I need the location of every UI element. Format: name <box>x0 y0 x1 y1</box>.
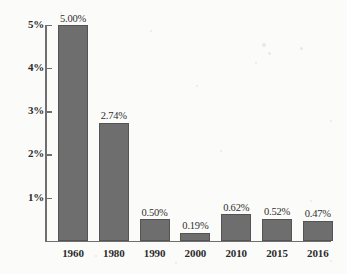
plot-area: 5.00%2.74%0.50%0.19%0.62%0.52%0.47% <box>45 25 331 241</box>
bar[interactable] <box>262 219 292 241</box>
bar-value-label: 5.00% <box>60 13 86 24</box>
x-tick-label: 2015 <box>257 247 297 259</box>
bar[interactable] <box>303 221 333 241</box>
bar-value-label: 0.62% <box>223 202 249 213</box>
x-tick-label: 1980 <box>94 247 134 259</box>
bar-value-label: 0.47% <box>305 208 331 219</box>
x-tick-label: 2000 <box>175 247 215 259</box>
x-tick-label: 1990 <box>135 247 175 259</box>
x-tick-label: 2016 <box>298 247 338 259</box>
bar-value-label: 0.19% <box>182 220 208 231</box>
bar[interactable] <box>140 219 170 241</box>
bar-group[interactable]: 2.74% <box>99 105 129 241</box>
y-tick-label: 3% <box>14 104 44 116</box>
bar-chart: 1%2%3%4%5% 5.00%2.74%0.50%0.19%0.62%0.52… <box>0 0 347 274</box>
bar-value-label: 2.74% <box>101 110 127 121</box>
bar[interactable] <box>221 214 251 241</box>
bar-group[interactable]: 0.50% <box>140 201 170 241</box>
x-tick-label: 1960 <box>53 247 93 259</box>
bar[interactable] <box>180 233 210 241</box>
x-tick-label: 2010 <box>216 247 256 259</box>
bar-group[interactable]: 0.52% <box>262 201 292 241</box>
bar[interactable] <box>58 25 88 241</box>
bar-value-label: 0.52% <box>264 206 290 217</box>
bar-value-label: 0.50% <box>142 207 168 218</box>
y-tick-label: 1% <box>14 191 44 203</box>
y-tick-label: 4% <box>14 61 44 73</box>
bar-group[interactable]: 0.47% <box>303 203 333 241</box>
bar-group[interactable]: 0.62% <box>221 196 251 241</box>
bar[interactable] <box>99 123 129 241</box>
bar-group[interactable]: 5.00% <box>58 7 88 241</box>
y-tick-label: 2% <box>14 147 44 159</box>
bar-group[interactable]: 0.19% <box>180 215 210 241</box>
y-tick-label: 5% <box>14 18 44 30</box>
